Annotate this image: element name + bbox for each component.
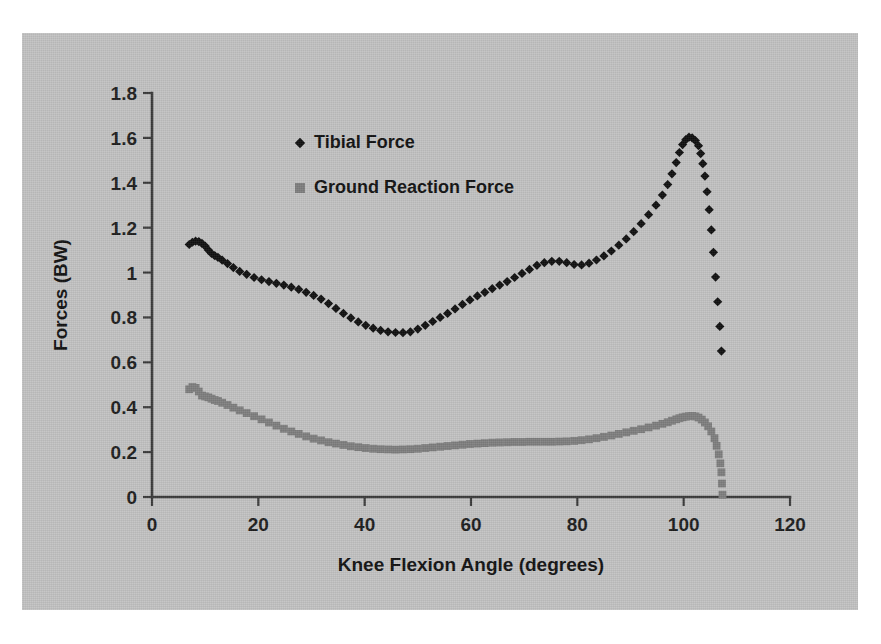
data-point xyxy=(496,439,504,447)
data-point xyxy=(369,445,377,453)
x-tick-label: 0 xyxy=(147,514,158,535)
chart-legend: Tibial ForceGround Reaction Force xyxy=(295,132,514,197)
data-point xyxy=(406,445,414,453)
data-point xyxy=(466,440,474,448)
data-point xyxy=(406,327,415,336)
data-point xyxy=(719,491,727,499)
y-tick-label: 1.6 xyxy=(111,128,137,149)
chart-plot: 00.20.40.60.811.21.41.61.8 0204060801001… xyxy=(22,33,858,610)
data-point xyxy=(698,159,707,168)
data-point xyxy=(702,187,711,196)
data-point xyxy=(376,326,385,335)
data-point xyxy=(295,430,303,438)
legend-marker-square-icon xyxy=(295,183,305,193)
y-tick-label: 0.8 xyxy=(111,307,137,328)
data-point xyxy=(563,437,571,445)
x-axis: 020406080100120 xyxy=(147,497,806,535)
data-point xyxy=(718,468,726,476)
data-point xyxy=(713,442,721,450)
chart-canvas: 00.20.40.60.811.21.41.61.8 0204060801001… xyxy=(22,33,858,610)
data-point xyxy=(622,428,630,436)
data-point xyxy=(264,277,273,286)
x-tick-label: 80 xyxy=(567,514,588,535)
data-point xyxy=(384,446,392,454)
data-point xyxy=(555,438,563,446)
data-point xyxy=(481,439,489,447)
data-point xyxy=(347,442,355,450)
data-point xyxy=(637,219,646,228)
data-point xyxy=(339,309,348,318)
data-point xyxy=(532,261,541,270)
data-point xyxy=(711,434,719,442)
data-point xyxy=(644,210,653,219)
data-point xyxy=(450,304,459,313)
data-point xyxy=(658,191,667,200)
data-point xyxy=(630,427,638,435)
legend-marker-diamond-icon xyxy=(295,138,305,148)
y-tick-label: 0 xyxy=(126,487,137,508)
data-point xyxy=(443,309,452,318)
y-tick-label: 0.6 xyxy=(111,352,137,373)
y-tick-label: 1.4 xyxy=(111,173,138,194)
data-point xyxy=(428,317,437,326)
data-point xyxy=(718,480,726,488)
data-point xyxy=(317,437,325,445)
data-point xyxy=(705,205,714,214)
data-point xyxy=(578,436,586,444)
y-tick-label: 1.8 xyxy=(111,83,137,104)
data-point xyxy=(517,269,526,278)
data-point xyxy=(383,327,392,336)
data-point xyxy=(273,422,281,430)
data-point xyxy=(413,325,422,334)
data-point xyxy=(458,300,467,309)
data-point xyxy=(324,299,333,308)
x-tick-label: 120 xyxy=(774,514,806,535)
data-point xyxy=(709,248,718,257)
data-point xyxy=(429,443,437,451)
data-point xyxy=(236,406,244,414)
data-point xyxy=(421,444,429,452)
x-tick-label: 20 xyxy=(248,514,269,535)
series-1 xyxy=(185,133,726,356)
data-point xyxy=(555,257,564,266)
data-point xyxy=(651,201,660,210)
data-point xyxy=(717,347,726,356)
data-point xyxy=(711,272,720,281)
data-point xyxy=(287,428,295,436)
data-point xyxy=(331,304,340,313)
data-point xyxy=(362,444,370,452)
data-point xyxy=(392,446,400,454)
data-point xyxy=(599,251,608,260)
data-point xyxy=(540,438,548,446)
data-point xyxy=(570,437,578,445)
data-point xyxy=(696,149,705,158)
data-point xyxy=(614,241,623,250)
data-point xyxy=(310,435,318,443)
data-point xyxy=(615,430,623,438)
y-tick-label: 0.4 xyxy=(111,397,138,418)
data-point xyxy=(280,425,288,433)
series-2 xyxy=(185,383,726,499)
data-point xyxy=(250,412,258,420)
data-point xyxy=(525,265,534,274)
data-point xyxy=(663,180,672,189)
data-point xyxy=(488,439,496,447)
data-point xyxy=(340,441,348,449)
data-point xyxy=(346,313,355,322)
x-axis-title: Knee Flexion Angle (degrees) xyxy=(338,554,604,575)
data-point xyxy=(713,297,722,306)
data-point xyxy=(667,169,676,178)
data-point xyxy=(672,158,681,167)
data-point xyxy=(707,428,715,436)
data-point xyxy=(700,171,709,180)
data-point xyxy=(444,442,452,450)
data-point xyxy=(577,260,586,269)
x-tick-label: 60 xyxy=(460,514,481,535)
data-point xyxy=(600,433,608,441)
data-point xyxy=(398,328,407,337)
data-point xyxy=(399,446,407,454)
data-point xyxy=(607,432,615,440)
y-axis: 00.20.40.60.811.21.41.61.8 xyxy=(111,83,152,508)
data-point xyxy=(421,321,430,330)
data-point xyxy=(511,438,519,446)
